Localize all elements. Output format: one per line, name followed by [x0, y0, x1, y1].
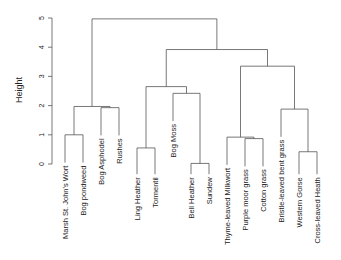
dendrogram-branch — [101, 108, 119, 136]
y-tick-label: 0 — [38, 162, 45, 166]
dendrogram-chart: 012345 Marsh St. John's WortBog pondweed… — [0, 0, 341, 260]
dendrogram-branch — [146, 87, 187, 148]
leaf-label: Purple moor grass — [241, 169, 250, 231]
leaf-label: Ling Heather — [133, 177, 142, 220]
leaf-label: Western Gorse — [295, 177, 304, 227]
leaf-label: Bog pondweed — [79, 166, 88, 216]
y-tick-label: 3 — [38, 74, 45, 78]
dendrogram-branch — [166, 50, 267, 87]
leaf-labels: Marsh St. John's WortBog pondweedBog Asp… — [61, 124, 322, 245]
dendrogram-plot: 012345 Marsh St. John's WortBog pondweed… — [0, 0, 341, 260]
y-tick-label: 4 — [38, 45, 45, 49]
leaf-label: Bog Moss — [169, 124, 178, 158]
dendrogram-branch — [65, 135, 83, 163]
leaf-label: Marsh St. John's Wort — [61, 165, 70, 239]
y-axis: 012345 — [38, 16, 52, 166]
dendrogram-branch — [191, 163, 209, 174]
dendrogram-branch — [299, 152, 317, 174]
leaf-label: Rushes — [115, 138, 124, 164]
y-axis-label: Height — [14, 76, 24, 103]
dendrogram-branch — [227, 137, 254, 165]
leaf-label: Thyme-leaved Milkwort — [223, 167, 232, 245]
y-tick-label: 2 — [38, 104, 45, 108]
leaf-label: Bell Heather — [187, 177, 196, 219]
leaf-label: Bristle-leaved bent grass — [277, 140, 286, 223]
y-tick-label: 5 — [38, 16, 45, 20]
dendrogram-branch — [245, 139, 263, 167]
dendrogram-branch — [241, 66, 295, 137]
y-tick-label: 1 — [38, 133, 45, 137]
leaf-label: Bog Asphodel — [97, 138, 106, 185]
leaf-label: Sundew — [205, 177, 214, 205]
dendrogram-branch — [74, 106, 110, 134]
leaf-label: Cross-leaved Heath — [313, 177, 322, 243]
leaf-label: Cotton grass — [259, 169, 268, 212]
leaf-label: Tormentil — [151, 177, 160, 208]
dendrogram-branch — [137, 148, 155, 174]
